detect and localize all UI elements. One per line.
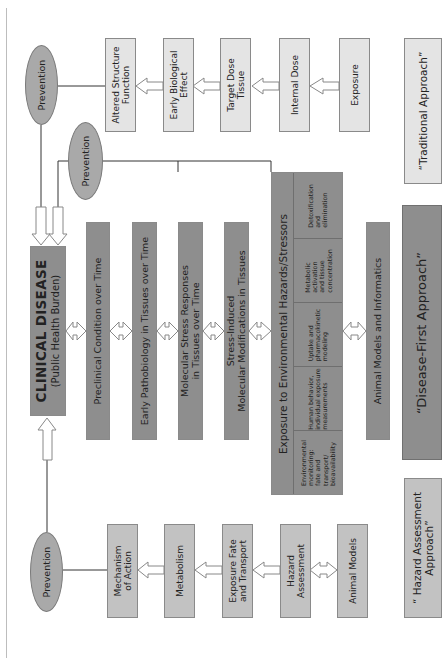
step-label: Metabolism (174, 545, 184, 597)
cell-label: Uptake and pharmacokinetic modeling (307, 308, 329, 361)
cell-label: Human behavior, individual exposure meas… (307, 368, 329, 430)
exposure-title-strip: Exposure to Environmental Hazards/Stress… (272, 173, 293, 494)
stage-molecular-stress: Molecular Stress Responses in Tissues ov… (178, 222, 203, 440)
prevention-label: Prevention (41, 547, 52, 598)
prevention-ellipse-hazard: Prevention (30, 532, 63, 612)
exposure-title: Exposure to Environmental Hazards/Stress… (276, 213, 288, 453)
step-label: Internal Dose (289, 55, 299, 115)
prevention-ellipse-traditional: Prevention (25, 45, 58, 125)
stage-label: Preclinical Condition over Time (93, 258, 104, 405)
hazard-assessment-approach-label: “ Hazard Assessment Approach” (411, 492, 435, 604)
prevention-label: Prevention (80, 136, 91, 187)
step-animal-models: Animal Models (337, 524, 368, 618)
disease-first-approach-label-box: “Disease-First Approach” (402, 205, 442, 460)
prevention-ellipse-disease-first: Prevention (68, 122, 103, 200)
exposure-cell-detoxification: Detoxification and elimination (293, 173, 342, 238)
prevention-label: Prevention (36, 60, 47, 111)
stage-label: Stress-Induced Molecular Modifications i… (226, 250, 248, 412)
step-label: Exposure (349, 64, 359, 106)
stage-label: Molecular Stress Responses in Tissues ov… (180, 265, 202, 397)
clinical-disease-text: CLINICAL DISEASE (Public Health Burden) (34, 260, 61, 403)
exposure-cell-metabolic-activation: Metabolic activation and tissue concentr… (293, 238, 342, 302)
step-exposure: Exposure (339, 38, 370, 132)
traditional-approach-label: “Traditional Approach” (417, 52, 429, 171)
step-label: Mechanism of Action (112, 545, 133, 596)
stage-preclinical: Preclinical Condition over Time (86, 222, 110, 440)
clinical-disease-subtitle: (Public Health Burden) (50, 260, 62, 403)
animal-models-informatics-box: Animal Models and Informatics (366, 222, 390, 440)
step-label: Animal Models (347, 538, 357, 604)
step-mechanism-of-action: Mechanism of Action (107, 524, 138, 618)
stage-stress-induced: Stress-Induced Molecular Modifications i… (224, 222, 249, 440)
clinical-disease-box: CLINICAL DISEASE (Public Health Burden) (30, 246, 66, 416)
disease-first-approach-label: “Disease-First Approach” (415, 251, 430, 413)
step-label: Target Dose Tissue (225, 58, 246, 111)
step-label: Hazard Assessment (285, 544, 306, 598)
exposure-cell-uptake-pharmacokinetic: Uptake and pharmacokinetic modeling (293, 302, 342, 366)
stage-label: Early Pathobiology in Tissues over Time (139, 237, 150, 425)
exposure-cells: Environmental monitoring: fate and trans… (293, 173, 342, 494)
traditional-approach-label-box: “Traditional Approach” (404, 38, 442, 184)
cell-label: Metabolic activation and tissue concentr… (304, 249, 333, 293)
cell-label: Detoxification and elimination (307, 184, 329, 228)
step-target-dose-tissue: Target Dose Tissue (220, 38, 251, 132)
step-label: Early Biological Effect (168, 51, 189, 120)
exposure-hazards-box: Exposure to Environmental Hazards/Stress… (271, 172, 343, 495)
animal-models-informatics-label: Animal Models and Informatics (373, 258, 384, 405)
exposure-cell-environmental-monitoring: Environmental monitoring: fate and trans… (293, 430, 342, 494)
exposure-cell-human-behavior: Human behavior, individual exposure meas… (293, 366, 342, 430)
step-early-biological-effect: Early Biological Effect (163, 38, 194, 132)
cell-label: Environmental monitoring: fate and trans… (300, 440, 336, 486)
step-altered-structure: Altered Structure Function (105, 38, 136, 132)
step-internal-dose: Internal Dose (279, 38, 310, 132)
stage-early-pathobiology: Early Pathobiology in Tissues over Time (132, 222, 157, 440)
step-hazard-assessment: Hazard Assessment (280, 524, 311, 618)
step-exposure-fate-transport: Exposure Fate and Transport (222, 524, 253, 618)
step-label: Altered Structure Function (110, 46, 131, 123)
hazard-assessment-approach-label-box: “ Hazard Assessment Approach” (404, 478, 442, 618)
step-label: Exposure Fate and Transport (227, 539, 248, 602)
clinical-disease-title: CLINICAL DISEASE (34, 260, 50, 403)
step-metabolism: Metabolism (164, 524, 195, 618)
